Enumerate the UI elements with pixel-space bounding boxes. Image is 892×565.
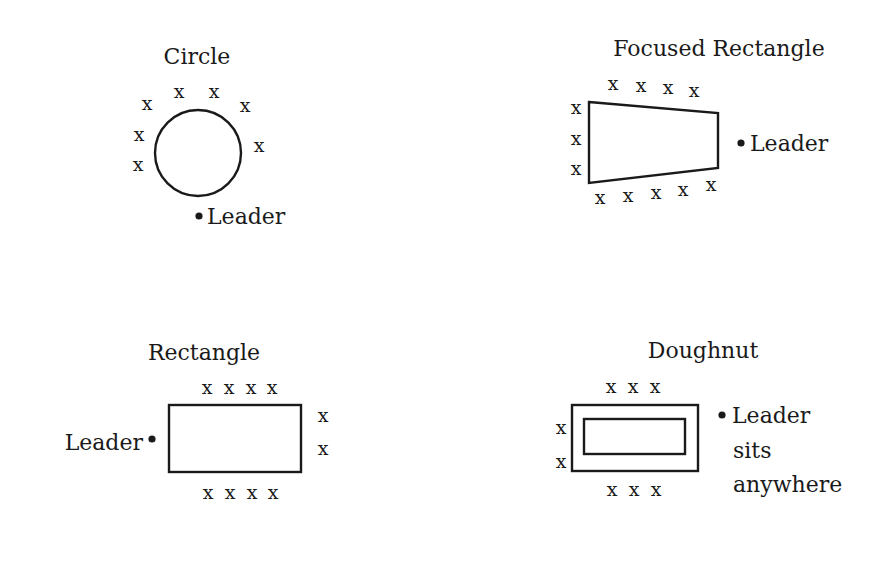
seat-mark: x (247, 481, 258, 503)
seat-mark: x (267, 376, 278, 398)
seat-mark: x (133, 153, 144, 175)
leader-dot-icon (737, 139, 744, 146)
seat-mark: x (142, 92, 153, 114)
seat-mark: x (318, 437, 329, 459)
leader-dot-icon (148, 435, 155, 442)
rectangle-title: Rectangle (148, 340, 260, 365)
seat-mark: x (571, 96, 582, 118)
seat-mark: x (636, 74, 647, 96)
seat-mark: x (174, 80, 185, 102)
leader-dot-icon (718, 411, 725, 418)
seat-mark: x (628, 375, 639, 397)
doughnut-title: Doughnut (648, 338, 759, 363)
rectangle-shape (169, 405, 301, 472)
trapezoid-shape (589, 102, 718, 183)
seat-mark: x (606, 375, 617, 397)
seat-mark: x (629, 478, 640, 500)
seat-mark: x (706, 173, 717, 195)
focused-rectangle-title: Focused Rectangle (613, 36, 824, 61)
seat-mark: x (209, 80, 220, 102)
circle-marks: xxxxxxx (133, 80, 265, 175)
doughnut-diagram: Doughnut xxxxxxxx Leader sits anywhere (556, 338, 843, 500)
seat-mark: x (268, 481, 279, 503)
doughnut-leader-line-2: sits (733, 438, 771, 463)
seat-mark: x (650, 375, 661, 397)
seat-mark: x (623, 184, 634, 206)
seat-mark: x (254, 134, 265, 156)
seat-mark: x (240, 94, 251, 116)
circle-leader-label: Leader (207, 204, 286, 229)
rectangle-leader-label: Leader (65, 430, 144, 455)
doughnut-leader-line-1: Leader (732, 403, 811, 428)
seat-mark: x (202, 376, 213, 398)
seat-mark: x (607, 478, 618, 500)
rectangle-diagram: Rectangle xxxxxxxxxx Leader (65, 340, 329, 503)
seat-mark: x (318, 404, 329, 426)
rectangle-marks: xxxxxxxxxx (202, 376, 329, 503)
seat-mark: x (571, 157, 582, 179)
seat-mark: x (571, 127, 582, 149)
seat-mark: x (246, 376, 257, 398)
seat-mark: x (225, 481, 236, 503)
doughnut-leader-line-3: anywhere (733, 472, 842, 497)
focused-rectangle-leader-label: Leader (750, 131, 829, 156)
circle-shape (155, 110, 241, 196)
seat-mark: x (689, 79, 700, 101)
seat-mark: x (651, 478, 662, 500)
seat-mark: x (595, 186, 606, 208)
focused-rectangle-diagram: Focused Rectangle xxxxxxxxxxxx Leader (571, 36, 829, 208)
seat-mark: x (663, 76, 674, 98)
doughnut-outer-rect (572, 405, 698, 471)
seat-mark: x (224, 376, 235, 398)
circle-diagram: Circle xxxxxxx Leader (133, 44, 286, 229)
seat-mark: x (678, 178, 689, 200)
seat-mark: x (651, 181, 662, 203)
seat-mark: x (608, 72, 619, 94)
seat-mark: x (556, 450, 567, 472)
seat-mark: x (134, 123, 145, 145)
focused-rectangle-marks: xxxxxxxxxxxx (571, 72, 717, 208)
leader-dot-icon (195, 212, 202, 219)
seat-mark: x (556, 416, 567, 438)
seating-diagrams-canvas: Circle xxxxxxx Leader Focused Rectangle … (0, 0, 892, 565)
doughnut-inner-rect (584, 419, 685, 454)
circle-title: Circle (164, 44, 231, 69)
seat-mark: x (203, 481, 214, 503)
